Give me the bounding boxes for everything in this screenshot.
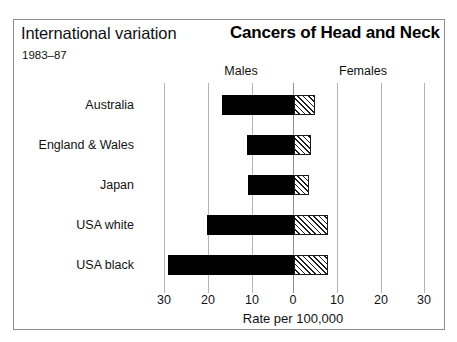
row-label-usa-white: USA white bbox=[14, 218, 134, 232]
gridline-right-10 bbox=[337, 83, 338, 293]
xtick-label-0: 30 bbox=[157, 293, 171, 307]
chart-page: International variation Cancers of Head … bbox=[0, 0, 457, 342]
legend-females-label: Females bbox=[339, 64, 387, 78]
row-label-england-wales: England & Wales bbox=[14, 138, 134, 152]
bar-male-japan bbox=[248, 175, 294, 195]
xtick-label-2: 10 bbox=[245, 293, 259, 307]
xtick-label-3: 0 bbox=[290, 293, 297, 307]
bar-female-usa-black bbox=[294, 255, 328, 275]
figure-frame: International variation Cancers of Head … bbox=[13, 19, 445, 330]
row-label-japan: Japan bbox=[14, 178, 134, 192]
bar-female-australia bbox=[294, 95, 315, 115]
bar-male-england-wales bbox=[247, 135, 294, 155]
row-label-australia: Australia bbox=[14, 98, 134, 112]
bar-female-japan bbox=[294, 175, 309, 195]
legend-males-label: Males bbox=[224, 64, 257, 78]
gridline-left-30 bbox=[164, 83, 165, 293]
plot-area: Males Females Australia England & Wales … bbox=[14, 20, 446, 331]
xtick-label-4: 10 bbox=[330, 293, 344, 307]
row-label-usa-black: USA black bbox=[14, 258, 134, 272]
bar-female-usa-white bbox=[294, 215, 328, 235]
bar-male-usa-white bbox=[207, 215, 294, 235]
bar-female-england-wales bbox=[294, 135, 311, 155]
xtick-label-1: 20 bbox=[201, 293, 215, 307]
xtick-label-5: 20 bbox=[374, 293, 388, 307]
x-axis-title: Rate per 100,000 bbox=[243, 311, 343, 326]
bar-male-usa-black bbox=[168, 255, 294, 275]
xtick-label-6: 30 bbox=[417, 293, 431, 307]
gridline-right-30 bbox=[424, 83, 425, 293]
bar-male-australia bbox=[222, 95, 294, 115]
gridline-right-20 bbox=[381, 83, 382, 293]
